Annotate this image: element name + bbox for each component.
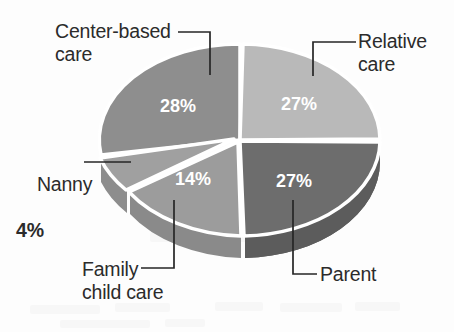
slice-label-nanny: Nanny	[37, 173, 92, 195]
value-label-parent: 27%	[276, 171, 312, 191]
value-label-nanny: 4%	[16, 219, 92, 242]
value-label-relative: 27%	[281, 94, 317, 114]
value-label-family: 14%	[175, 169, 211, 189]
slice-label-center-based-care: Center-based care	[55, 20, 171, 66]
slice-label-relative-care: Relative care	[358, 30, 427, 76]
value-label-center-based: 28%	[160, 96, 196, 116]
slice-label-nanny-group: Nanny 4%	[16, 150, 92, 288]
slice-label-parent: Parent	[320, 263, 376, 286]
slice-label-family-child-care: Family child care	[82, 258, 163, 304]
pie-chart-figure: 28% 27% 27% 14% Center-based care Relati…	[0, 0, 454, 332]
